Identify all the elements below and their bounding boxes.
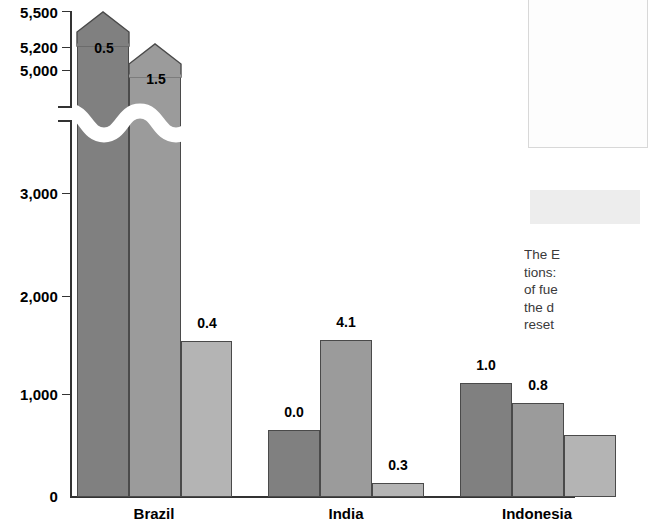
sidebar-paragraph: The E tions: of fue the d reset [524, 246, 584, 341]
bar-brazil-series-3[interactable] [181, 341, 232, 497]
bar-india-series-1[interactable] [268, 430, 320, 497]
y-tick-5200 [62, 47, 71, 48]
value-label-brazil-series-1: 0.5 [80, 40, 128, 56]
y-axis-label-1000: 1,000 [0, 386, 58, 403]
y-axis-label-5500: 5,500 [0, 4, 58, 21]
legend-panel [528, 0, 648, 148]
value-label-india-series-1: 0.0 [269, 404, 319, 420]
bar-indonesia-series-2[interactable] [512, 403, 564, 497]
category-label-india: India [296, 505, 396, 522]
bar-india-series-3[interactable] [372, 483, 424, 497]
y-axis-label-2000: 2,000 [0, 288, 58, 305]
category-label-indonesia: Indonesia [482, 505, 592, 522]
value-label-indonesia-series-1: 1.0 [461, 357, 511, 373]
y-axis-upper-segment [70, 11, 72, 106]
y-axis-label-0: 0 [0, 488, 58, 505]
y-tick-break-lower [58, 120, 72, 122]
y-axis-label-5200: 5,200 [0, 39, 58, 56]
category-label-brazil: Brazil [104, 505, 204, 522]
y-tick-break-upper [58, 106, 72, 108]
value-label-india-series-2: 4.1 [321, 314, 371, 330]
y-tick-5500 [62, 11, 71, 12]
bar-indonesia-series-1[interactable] [460, 383, 512, 497]
value-label-brazil-series-3: 0.4 [182, 315, 232, 331]
y-axis-label-3000: 3,000 [0, 185, 58, 202]
bar-india-series-2[interactable] [320, 340, 372, 497]
value-label-india-series-3: 0.3 [373, 457, 423, 473]
y-axis-lower-segment [70, 120, 72, 497]
axis-break-wave [72, 97, 248, 143]
value-label-brazil-series-2: 1.5 [132, 71, 180, 87]
y-tick-2000 [62, 296, 71, 297]
y-axis-label-5000: 5,000 [0, 62, 58, 79]
y-tick-5000 [62, 70, 71, 71]
y-tick-1000 [62, 394, 71, 395]
value-label-indonesia-series-2: 0.8 [513, 377, 563, 393]
bar-indonesia-series-3[interactable] [564, 435, 616, 497]
section-swatch [530, 190, 640, 224]
y-tick-3000 [62, 193, 71, 194]
